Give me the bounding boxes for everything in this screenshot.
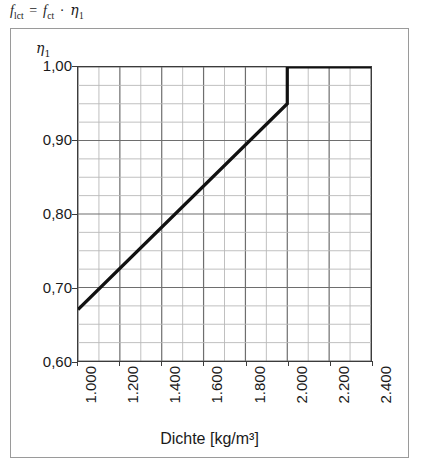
y-tick-mark	[72, 140, 78, 141]
x-tick-mark	[119, 361, 120, 366]
x-axis-tick-labels: 1.0001.2001.4001.6001.8002.0002.2002.400	[77, 366, 372, 424]
y-tick-label: 1,00	[10, 58, 72, 73]
y-tick-label: 0,70	[10, 280, 72, 295]
y-tick-mark	[72, 66, 78, 67]
x-tick-label: 2.000	[294, 366, 309, 404]
y-tick-mark	[72, 288, 78, 289]
formula-eta-subscript: 1	[79, 11, 84, 21]
x-tick-mark	[330, 361, 331, 366]
x-tick-label: 2.200	[336, 366, 351, 404]
y-axis-symbol: η1	[36, 40, 50, 59]
x-tick-label: 1.200	[125, 366, 140, 404]
x-axis-title: Dichte [kg/m³]	[10, 430, 409, 448]
y-tick-label: 0,60	[10, 354, 72, 369]
y-tick-mark	[72, 214, 78, 215]
formula-multiply-operator: ·	[58, 3, 67, 18]
plot-area	[77, 66, 372, 362]
formula-lhs-subscript: lct	[14, 11, 24, 21]
formula-caption: flct = fct · η1	[10, 2, 84, 21]
x-tick-label: 1.000	[83, 366, 98, 404]
x-tick-mark	[161, 361, 162, 366]
data-series-line	[78, 67, 371, 361]
formula-eta-base: η	[70, 2, 79, 18]
x-tick-label: 1.600	[209, 366, 224, 404]
x-tick-mark	[288, 361, 289, 366]
y-axis-tick-labels: 1,000,900,800,700,60	[8, 66, 72, 362]
x-tick-mark	[246, 361, 247, 366]
x-tick-mark	[372, 361, 373, 366]
x-tick-label: 1.400	[167, 366, 182, 404]
formula-equals: =	[27, 3, 39, 18]
formula-rhs-subscript: ct	[47, 11, 54, 21]
y-tick-label: 0,90	[10, 132, 72, 147]
x-tick-label: 1.800	[252, 366, 267, 404]
x-tick-label: 2.400	[378, 366, 393, 404]
x-tick-mark	[77, 361, 78, 366]
x-tick-mark	[203, 361, 204, 366]
y-tick-label: 0,80	[10, 206, 72, 221]
